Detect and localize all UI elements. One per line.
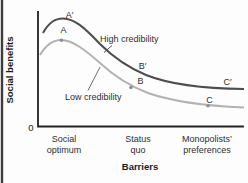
high-credibility-label: High credibility xyxy=(100,34,159,44)
point-label-c-prime: C′ xyxy=(223,77,231,87)
low-credibility-leader-line xyxy=(88,67,100,91)
x-axis-label: Barriers xyxy=(122,161,158,172)
point-label-a: A xyxy=(60,25,66,35)
tick-status-quo-line2: quo xyxy=(130,145,145,155)
point-label-b-prime: B′ xyxy=(139,61,147,71)
point-label-a-prime: A′ xyxy=(66,10,74,20)
low-credibility-label: Low credibility xyxy=(65,92,122,102)
origin-zero-label: 0 xyxy=(28,122,33,133)
credibility-barriers-figure: High credibility Low credibility A′ A B′… xyxy=(0,0,248,183)
tick-monopolists-preferences-line2: preferences xyxy=(183,145,231,155)
tick-social-optimum-line2: optimum xyxy=(47,145,82,155)
credibility-barriers-chart: High credibility Low credibility A′ A B′… xyxy=(0,0,248,183)
tick-status-quo-line1: Status xyxy=(125,134,151,144)
point-label-b: B xyxy=(137,76,143,86)
y-axis-label: Social benefits xyxy=(4,36,15,103)
tick-monopolists-preferences-line1: Monopolists’ xyxy=(182,134,232,144)
point-marker-b xyxy=(129,86,133,90)
point-label-c: C xyxy=(206,95,213,105)
tick-social-optimum-line1: Social xyxy=(52,134,77,144)
point-marker-a xyxy=(60,39,64,43)
